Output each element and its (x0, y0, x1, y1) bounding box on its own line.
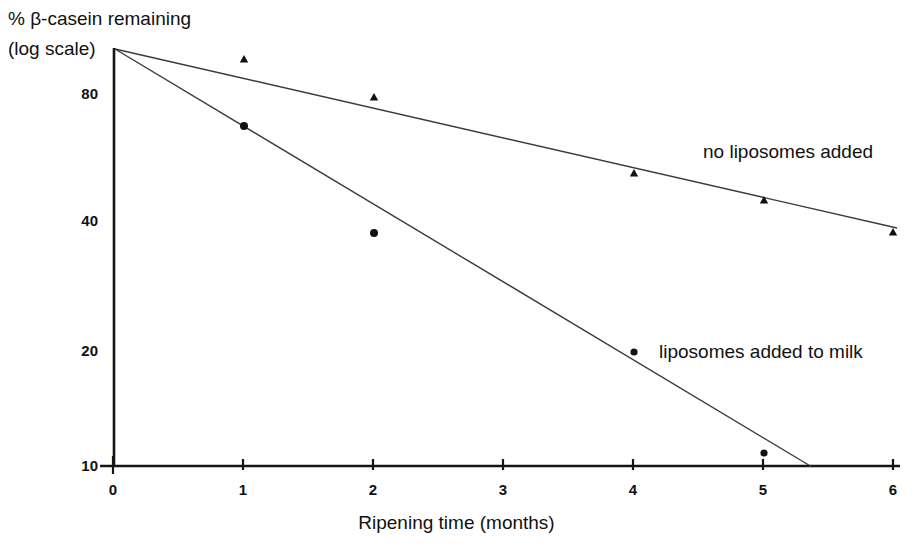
data-point-marker (630, 348, 637, 355)
data-point-marker (370, 229, 378, 237)
plot-area (0, 0, 913, 548)
data-point-marker (240, 55, 248, 63)
data-point-marker (630, 169, 638, 177)
data-point-marker (370, 93, 378, 101)
data-point-marker (760, 449, 767, 456)
trend-lines (115, 49, 897, 467)
series-no-liposomes-markers (240, 55, 897, 236)
data-point-marker (889, 228, 897, 236)
trend-line-liposomes-added (115, 49, 812, 467)
chart-container: % β-casein remaining (log scale) Ripenin… (0, 0, 913, 548)
data-point-marker (240, 122, 248, 130)
trend-line-no-liposomes (115, 49, 897, 228)
